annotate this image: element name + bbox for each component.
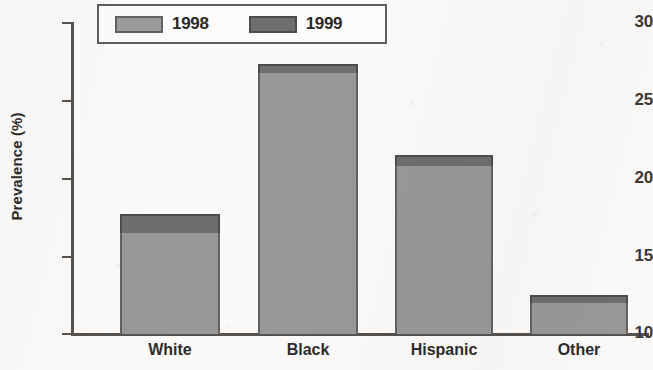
- y-axis-title: Prevalence (%): [8, 77, 25, 257]
- bar-black: [258, 64, 358, 334]
- y-tick-label-30: 30: [619, 12, 653, 32]
- y-tick-20: [62, 178, 73, 180]
- plot-area: 30 25 20 15 10 Prevalence (%) White Blac…: [0, 0, 653, 370]
- legend-entry-1999: 1999: [249, 14, 343, 34]
- bar-white-segment-1999: [120, 214, 220, 233]
- bar-hispanic-segment-1998: [395, 166, 493, 334]
- y-tick-label-15: 15: [619, 246, 653, 266]
- y-tick-label-20: 20: [619, 168, 653, 188]
- legend: 1998 1999: [97, 4, 387, 44]
- y-tick-15: [62, 256, 73, 258]
- bar-other: [530, 295, 628, 334]
- y-tick-10: [62, 333, 73, 335]
- legend-label-1998: 1998: [172, 14, 209, 34]
- bar-white: [120, 214, 220, 334]
- legend-label-1999: 1999: [306, 14, 343, 34]
- bar-black-segment-1998: [258, 73, 358, 334]
- x-tick-label-other: Other: [530, 341, 628, 359]
- bar-white-segment-1998: [120, 233, 220, 334]
- legend-entry-1998: 1998: [115, 14, 209, 34]
- x-tick-label-hispanic: Hispanic: [395, 341, 493, 359]
- bar-other-segment-1999: [530, 295, 628, 303]
- bar-hispanic-segment-1999: [395, 155, 493, 166]
- bar-other-segment-1998: [530, 303, 628, 334]
- x-tick-label-black: Black: [258, 341, 358, 359]
- y-tick-label-25: 25: [619, 90, 653, 110]
- legend-swatch-1998-icon: [115, 16, 163, 33]
- legend-swatch-1999-icon: [249, 16, 297, 33]
- bar-hispanic: [395, 155, 493, 334]
- y-tick-25: [62, 100, 73, 102]
- y-tick-30: [62, 22, 73, 24]
- bar-chart-figure: 30 25 20 15 10 Prevalence (%) White Blac…: [0, 0, 653, 370]
- x-tick-label-white: White: [120, 341, 220, 359]
- bar-black-segment-1999: [258, 64, 358, 73]
